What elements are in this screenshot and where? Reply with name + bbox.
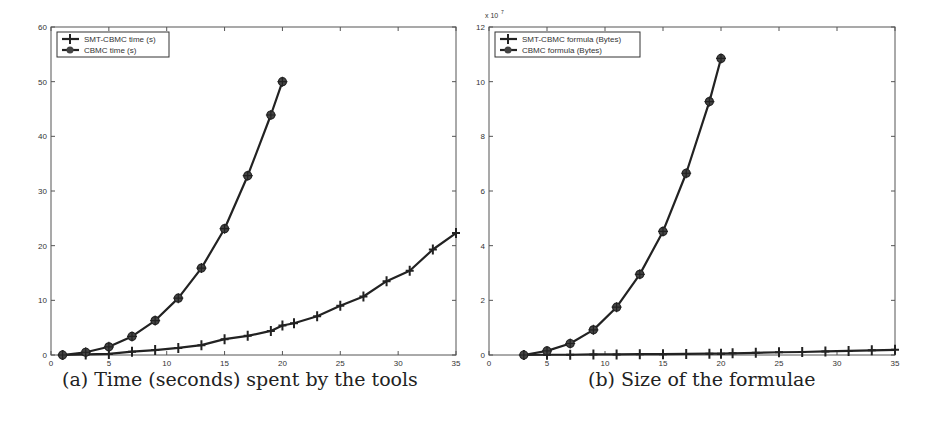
- x-tick-label: 35: [891, 359, 900, 368]
- plot-area: [489, 27, 895, 355]
- chart-panel-size: 05101520253035024681012x 107SMT-CBMC for…: [470, 0, 940, 432]
- x-tick-label: 0: [49, 359, 54, 368]
- x-tick-label: 5: [107, 359, 112, 368]
- y-tick-label: 4: [481, 242, 486, 251]
- y-tick-label: 40: [38, 132, 47, 141]
- x-tick-label: 30: [833, 359, 842, 368]
- y-tick-label: 10: [476, 78, 485, 87]
- caption-size: (b) Size of the formulae: [588, 368, 816, 390]
- y-tick-label: 8: [481, 132, 486, 141]
- y-tick-label: 10: [38, 296, 47, 305]
- chart-panel-time: 051015202530350102030405060SMT-CBMC time…: [0, 0, 470, 432]
- y-multiplier-exponent: 7: [501, 9, 504, 15]
- plot-area: [51, 27, 456, 355]
- y-tick-label: 20: [38, 242, 47, 251]
- x-tick-label: 15: [220, 359, 229, 368]
- x-tick-label: 20: [278, 359, 287, 368]
- x-tick-label: 30: [394, 359, 403, 368]
- star-marker-icon: [505, 47, 512, 54]
- caption-time: (a) Time (seconds) spent by the tools: [62, 368, 418, 390]
- star-marker-icon: [67, 47, 74, 54]
- legend-label: CBMC formula (Bytes): [522, 46, 602, 55]
- x-tick-label: 10: [162, 359, 171, 368]
- legend-label: SMT-CBMC time (s): [84, 35, 156, 44]
- y-tick-label: 6: [481, 187, 486, 196]
- x-tick-label: 20: [717, 359, 726, 368]
- legend-label: SMT-CBMC formula (Bytes): [522, 35, 621, 44]
- x-tick-label: 25: [775, 359, 784, 368]
- y-tick-label: 60: [38, 23, 47, 32]
- y-tick-label: 0: [481, 351, 486, 360]
- x-tick-label: 15: [659, 359, 668, 368]
- y-tick-label: 12: [476, 23, 485, 32]
- x-tick-label: 5: [545, 359, 550, 368]
- x-tick-label: 25: [336, 359, 345, 368]
- x-tick-label: 10: [601, 359, 610, 368]
- y-tick-label: 50: [38, 78, 47, 87]
- legend-label: CBMC time (s): [84, 46, 137, 55]
- x-tick-label: 35: [452, 359, 461, 368]
- y-tick-label: 0: [43, 351, 48, 360]
- y-tick-label: 30: [38, 187, 47, 196]
- y-tick-label: 2: [481, 296, 486, 305]
- y-multiplier: x 10: [485, 12, 498, 19]
- x-tick-label: 0: [487, 359, 492, 368]
